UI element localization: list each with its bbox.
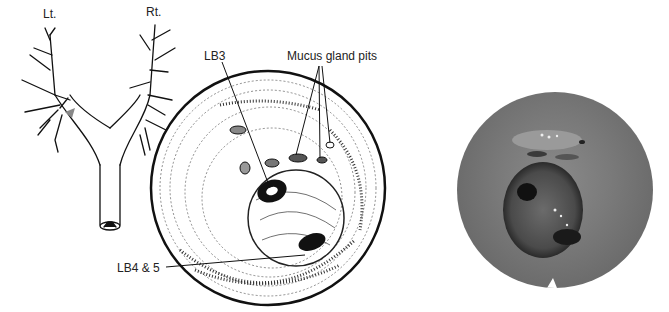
- label-left: Lt.: [43, 8, 56, 20]
- endoscopic-drawing: [151, 71, 385, 305]
- label-mucus-gland-pits: Mucus gland pits: [287, 50, 377, 62]
- endoscopic-photo: [457, 92, 653, 288]
- label-lb4-5: LB4 & 5: [117, 262, 160, 274]
- photo-detail: [457, 92, 653, 288]
- label-lb3: LB3: [204, 50, 225, 62]
- label-right: Rt.: [146, 6, 161, 18]
